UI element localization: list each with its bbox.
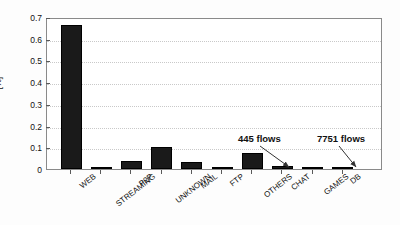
annotation-db: 7751 flows	[317, 133, 365, 144]
y-axis-label: [%]	[0, 77, 3, 89]
annotation-games: 445 flows	[238, 133, 281, 144]
bar-chat	[272, 166, 293, 169]
bar-mail	[181, 162, 202, 169]
x-axis-tick-mark	[281, 170, 282, 174]
bar-unknown	[151, 147, 172, 169]
y-axis-tick-mark	[46, 148, 50, 149]
y-axis-tick-mark	[46, 83, 50, 84]
y-axis-tick-label: 0.6	[30, 35, 42, 45]
y-axis-tick-label: 0.4	[30, 78, 42, 88]
x-axis-tick-mark	[100, 170, 101, 174]
x-axis-tick-mark	[130, 170, 131, 174]
y-axis-tick-mark	[46, 105, 50, 106]
x-axis-tick-mark	[221, 170, 222, 174]
x-axis-tick-label-ftp: FTP	[228, 172, 245, 188]
x-axis-tick-mark	[70, 170, 71, 174]
y-axis-tick-labels: 00.10.20.30.40.50.60.7	[6, 18, 42, 170]
bar-series	[47, 19, 381, 169]
y-axis-tick-label: 0.2	[30, 122, 42, 132]
bar-web	[61, 25, 82, 169]
bar-ftp	[212, 167, 233, 169]
y-axis-tick-label: 0.5	[30, 56, 42, 66]
y-axis-tick-mark	[46, 127, 50, 128]
bar-streaming	[91, 167, 112, 169]
x-axis-tick-mark	[251, 170, 252, 174]
figure: [%] 00.10.20.30.40.50.60.7 WEBSTREAMINGP…	[0, 0, 400, 225]
x-axis-tick-mark	[312, 170, 313, 174]
x-axis-tick-label-games: GAMES	[322, 172, 350, 197]
bar-games	[302, 167, 323, 169]
x-axis-tick-mark	[161, 170, 162, 174]
y-axis-tick-label: 0.3	[30, 100, 42, 110]
x-axis-tick-label-chat: CHAT	[290, 172, 312, 192]
y-axis-tick-mark	[46, 61, 50, 62]
x-axis-tick-label-web: WEB	[78, 172, 98, 190]
bar-db	[332, 167, 353, 169]
y-axis-tick-label: 0.1	[30, 143, 42, 153]
bar-others	[242, 153, 263, 169]
plot-area	[46, 18, 382, 170]
y-axis-tick-label: 0.7	[30, 13, 42, 23]
x-axis-tick-mark	[191, 170, 192, 174]
y-axis-tick-label: 0	[37, 165, 42, 175]
bar-p2p	[121, 161, 142, 169]
x-axis-tick-label-db: DB	[348, 172, 362, 186]
y-axis-tick-mark	[46, 40, 50, 41]
y-axis-tick-mark	[46, 18, 50, 19]
